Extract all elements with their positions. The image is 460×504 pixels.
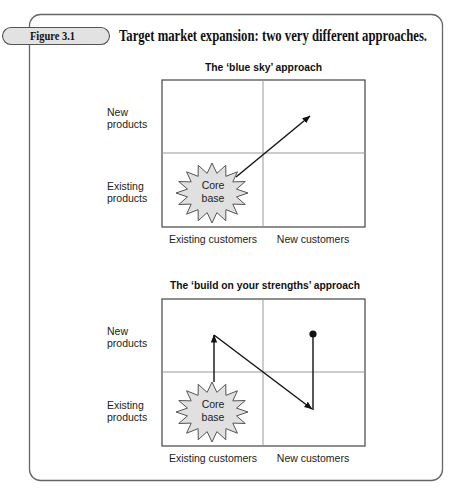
figure-label-badge: Figure 3.1	[3, 28, 110, 45]
row-label-new-products: New products	[107, 325, 147, 349]
row-label-new-products: New products	[107, 106, 147, 130]
row-label-line: products	[107, 411, 147, 423]
column-label-new-customers: New customers	[277, 233, 349, 245]
core-base-starburst: Core base	[176, 163, 248, 223]
core-label-line1: Core	[202, 398, 225, 410]
diagram-blue-sky: The ‘blue sky’ approach New products Exi…	[107, 61, 365, 245]
row-label-line: products	[107, 192, 147, 204]
figure-canvas: Figure 3.1 Target market expansion: two …	[0, 0, 460, 504]
row-label-line: products	[107, 118, 147, 130]
row-label-line: Existing	[107, 180, 144, 192]
column-label-new-customers: New customers	[277, 452, 349, 464]
core-label-line1: Core	[202, 179, 225, 191]
diagram-build-on-strengths: The ‘build on your strengths’ approach N…	[107, 279, 365, 464]
core-label-line2: base	[202, 192, 225, 204]
column-label-existing-customers: Existing customers	[169, 452, 257, 464]
row-label-existing-products: Existing products	[107, 180, 147, 204]
row-label-line: Existing	[107, 399, 144, 411]
core-label-line2: base	[202, 411, 225, 423]
figure-title: Target market expansion: two very differ…	[119, 27, 427, 45]
row-label-existing-products: Existing products	[107, 399, 147, 423]
row-label-line: New	[107, 106, 128, 118]
figure-label: Figure 3.1	[30, 29, 75, 43]
diagram-title: The ‘blue sky’ approach	[205, 61, 322, 73]
row-label-line: New	[107, 325, 128, 337]
diagram-title: The ‘build on your strengths’ approach	[170, 279, 360, 291]
row-label-line: products	[107, 337, 147, 349]
core-base-starburst: Core base	[176, 382, 248, 442]
endpoint-dot-icon	[309, 330, 316, 337]
column-label-existing-customers: Existing customers	[169, 233, 257, 245]
